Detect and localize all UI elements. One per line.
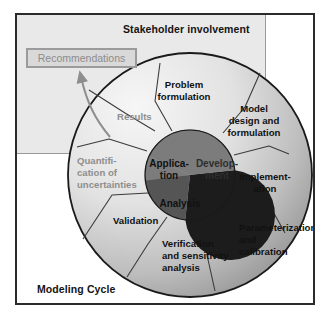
sector-label-implementation-line1: Implement- xyxy=(239,171,290,182)
figure-frame: Stakeholder involvement Modeling Cycle xyxy=(15,13,315,305)
sector-label-quantification-line3: uncertainties xyxy=(77,179,137,190)
sector-label-verification-line3: analysis xyxy=(162,262,200,273)
diagram-canvas: Stakeholder involvement Modeling Cycle xyxy=(0,0,329,320)
sector-label-validation: Validation xyxy=(113,215,158,226)
sector-label-model-design-line2: design and xyxy=(229,115,280,126)
sector-label-parameterization-line1: Parameterization xyxy=(239,222,315,233)
sector-label-problem-formulation-line1: Problem xyxy=(165,79,203,90)
sector-label-parameterization-line2: and xyxy=(239,234,256,245)
sector-label-quantification-line2: cation of xyxy=(77,167,118,178)
recommendations-label: Recommendations xyxy=(38,52,126,64)
sector-label-model-design-line1: Model xyxy=(240,103,268,114)
core-label-analysis: Analysis xyxy=(159,198,201,209)
sector-label-parameterization-line3: calibration xyxy=(239,246,288,257)
sector-label-verification-line1: Verification xyxy=(162,238,214,249)
sector-label-problem-formulation-line2: formulation xyxy=(158,91,211,102)
sector-label-results: Results xyxy=(117,111,152,122)
sector-label-implementation-line2: ation xyxy=(254,183,277,194)
core-label-development-line2: ment xyxy=(205,170,230,181)
core-label-application-line1: Applica- xyxy=(149,158,188,169)
sector-label-verification-line2: and sensitivity xyxy=(162,250,229,261)
sector-label-quantification-line1: Quantifi- xyxy=(77,155,116,166)
core-label-development-line1: Develop- xyxy=(196,158,238,169)
core-label-application-line2: tion xyxy=(160,170,178,181)
recommendations-box[interactable]: Recommendations xyxy=(26,48,137,68)
sector-label-model-design-line3: formulation xyxy=(228,127,281,138)
